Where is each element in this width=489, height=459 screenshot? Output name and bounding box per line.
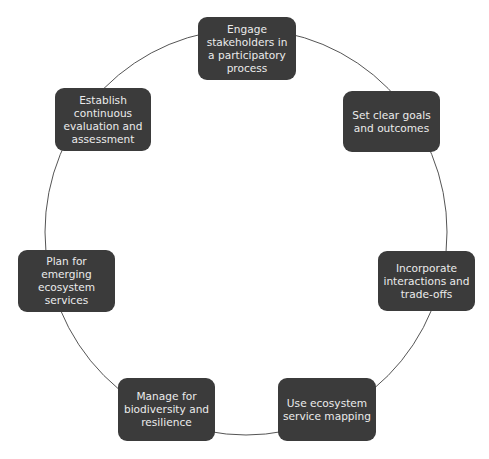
node-use-ecosystem-mapping: Use ecosystem service mapping (278, 378, 376, 441)
node-set-clear-goals: Set clear goals and outcomes (343, 91, 440, 152)
node-plan-emerging-services: Plan for emerging ecosystem services (18, 250, 115, 312)
node-establish-evaluation: Establish continuous evaluation and asse… (55, 88, 151, 151)
node-incorporate-interactions: Incorporate interactions and trade-offs (378, 251, 475, 311)
node-engage-stakeholders: Engage stakeholders in a participatory p… (198, 17, 296, 80)
node-manage-biodiversity: Manage for biodiversity and resilience (118, 378, 215, 441)
